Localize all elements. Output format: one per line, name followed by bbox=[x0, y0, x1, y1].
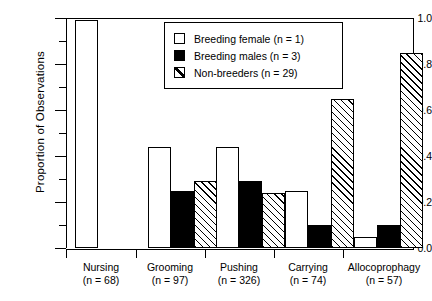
x-label-carrying: Carrying (n = 74) bbox=[269, 261, 347, 286]
bar-grooming-non-breeders bbox=[194, 181, 217, 248]
bar-pushing-non-breeders bbox=[262, 193, 285, 248]
x-label-nursing-name: Nursing bbox=[83, 261, 119, 273]
legend-label-breeding-female: Breeding female (n = 1) bbox=[194, 33, 304, 45]
x-label-grooming: Grooming (n = 97) bbox=[131, 261, 209, 286]
legend-item-breeding-female: Breeding female (n = 1) bbox=[174, 30, 334, 47]
x-label-nursing-count: (n = 68) bbox=[62, 274, 140, 287]
bar-carrying-breeding-female bbox=[285, 191, 308, 249]
bar-allocoprophagy-breeding-males bbox=[377, 225, 400, 248]
x-label-allocoprophagy-count: (n = 57) bbox=[338, 274, 430, 287]
bar-pushing-breeding-males bbox=[239, 181, 262, 248]
bar-allocoprophagy-breeding-female bbox=[354, 237, 377, 249]
x-label-carrying-count: (n = 74) bbox=[269, 274, 347, 287]
legend: Breeding female (n = 1) Breeding males (… bbox=[164, 22, 343, 89]
x-separator-tick bbox=[274, 249, 275, 258]
legend-label-breeding-males: Breeding males (n = 3) bbox=[194, 50, 301, 62]
hatched-square-icon bbox=[174, 67, 185, 78]
x-label-grooming-name: Grooming bbox=[147, 261, 193, 273]
white-square-icon bbox=[174, 33, 185, 44]
bar-group-allocoprophagy bbox=[354, 17, 423, 248]
bar-nursing-breeding-female bbox=[75, 20, 98, 248]
bar-grooming-breeding-males bbox=[171, 191, 194, 249]
legend-label-non-breeders: Non-breeders (n = 29) bbox=[194, 67, 298, 79]
black-square-icon bbox=[174, 50, 185, 61]
bar-allocoprophagy-non-breeders bbox=[400, 53, 423, 249]
x-label-allocoprophagy-name: Allocoprophagy bbox=[348, 261, 420, 273]
bar-group-nursing bbox=[75, 17, 98, 248]
x-separator-tick bbox=[205, 249, 206, 258]
legend-item-non-breeders: Non-breeders (n = 29) bbox=[174, 64, 334, 81]
x-label-carrying-name: Carrying bbox=[288, 261, 328, 273]
x-label-pushing-name: Pushing bbox=[220, 261, 258, 273]
bar-carrying-non-breeders bbox=[331, 99, 354, 249]
x-separator-tick bbox=[66, 249, 67, 258]
x-label-pushing: Pushing (n = 326) bbox=[200, 261, 278, 286]
x-label-nursing: Nursing (n = 68) bbox=[62, 261, 140, 286]
bar-pushing-breeding-female bbox=[216, 147, 239, 248]
bar-chart: Proportion of Observations 1.0 0.8 0.6 0… bbox=[0, 0, 432, 301]
x-label-allocoprophagy: Allocoprophagy (n = 57) bbox=[338, 261, 430, 286]
bar-carrying-breeding-males bbox=[308, 225, 331, 248]
x-label-pushing-count: (n = 326) bbox=[200, 274, 278, 287]
x-separator-tick bbox=[343, 249, 344, 258]
legend-item-breeding-males: Breeding males (n = 3) bbox=[174, 47, 334, 64]
bar-grooming-breeding-female bbox=[148, 147, 171, 248]
x-label-grooming-count: (n = 97) bbox=[131, 274, 209, 287]
x-separator-tick bbox=[136, 249, 137, 258]
